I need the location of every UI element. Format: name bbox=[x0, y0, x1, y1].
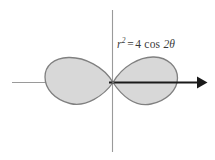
origin-cusp-icon bbox=[112, 81, 115, 84]
polar-curve-figure: r2=4 cos 2θ bbox=[0, 0, 215, 160]
equation-operator: = bbox=[126, 38, 136, 50]
equation-argument: 2θ bbox=[163, 38, 175, 50]
equation-label: r2=4 cos 2θ bbox=[117, 36, 175, 50]
right-lobe bbox=[113, 57, 178, 105]
equation-function: cos bbox=[144, 38, 160, 50]
left-lobe bbox=[45, 57, 113, 104]
right-arrowhead-icon bbox=[197, 77, 208, 89]
plot-canvas bbox=[0, 0, 215, 160]
equation-coefficient: 4 bbox=[135, 38, 141, 50]
